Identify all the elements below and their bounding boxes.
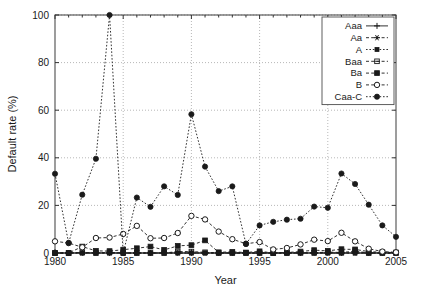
data-point-B-1989 [175, 230, 180, 235]
data-point-B-1999 [311, 237, 316, 242]
data-point-Caa-C-2000 [325, 205, 330, 210]
data-point-Ba-1999 [312, 248, 317, 253]
data-point-Caa-C-1985 [121, 250, 126, 255]
x-axis-title: Year [214, 274, 237, 286]
data-point-Caa-C-1997 [284, 217, 289, 222]
data-point-Caa-C-1983 [93, 156, 98, 161]
data-point-Ba-2001 [339, 247, 344, 252]
data-point-Ba-1983 [94, 248, 99, 253]
data-point-Ba-2002 [353, 247, 358, 252]
data-point-Ba-1995 [257, 249, 262, 254]
data-point-Ba-1981 [66, 251, 71, 256]
data-point-Ba-2000 [325, 248, 330, 253]
legend-marker-Caa-C [374, 94, 379, 99]
data-point-Caa-C-1984 [107, 12, 112, 17]
data-point-B-1993 [230, 236, 235, 241]
xtick-label-1980: 1980 [44, 256, 67, 267]
data-point-Ba-1987 [148, 244, 153, 249]
data-point-Caa-C-1990 [189, 112, 194, 117]
data-point-B-1996 [271, 247, 276, 252]
data-point-Caa-C-1988 [162, 184, 167, 189]
ytick-label-100: 100 [32, 10, 49, 21]
data-point-Caa-C-1986 [134, 195, 139, 200]
data-point-Ba-1988 [162, 248, 167, 253]
xtick-label-1985: 1985 [112, 256, 135, 267]
legend-label-aaa: Aaa [345, 20, 363, 31]
data-point-Caa-C-1994 [243, 241, 248, 246]
y-axis-title: Default rate (%) [6, 95, 18, 172]
legend-label-baa: Baa [345, 56, 363, 67]
ytick-label-80: 80 [38, 57, 50, 68]
data-point-Caa-C-1980 [52, 171, 57, 176]
data-point-B-1997 [284, 245, 289, 250]
data-point-Ba-1991 [203, 238, 208, 243]
data-point-B-2005 [393, 250, 398, 255]
data-point-B-2003 [366, 246, 371, 251]
data-point-Ba-1989 [175, 243, 180, 248]
chart-legend: AaaAaABaaBaBCaa-C [322, 17, 394, 105]
legend-label-aa: Aa [350, 32, 362, 43]
data-point-Ba-1986 [134, 246, 139, 251]
data-point-Ba-1984 [107, 249, 112, 254]
ytick-label-20: 20 [38, 200, 50, 211]
data-point-Caa-C-1981 [66, 240, 71, 245]
data-point-Caa-C-2004 [380, 223, 385, 228]
legend-marker-B [374, 82, 379, 87]
data-point-B-2001 [339, 230, 344, 235]
data-point-B-2004 [380, 249, 385, 254]
data-point-Ba-1993 [230, 249, 235, 254]
data-point-Caa-C-1989 [175, 192, 180, 197]
data-point-B-1984 [107, 235, 112, 240]
data-point-B-1998 [298, 242, 303, 247]
data-point-B-1991 [202, 217, 207, 222]
ytick-label-60: 60 [38, 105, 50, 116]
legend-label-b: B [356, 79, 362, 90]
data-point-B-1988 [161, 235, 166, 240]
data-point-Ba-1994 [244, 250, 249, 255]
data-point-Caa-C-2001 [339, 171, 344, 176]
data-point-B-2000 [325, 238, 330, 243]
data-point-Caa-C-1991 [202, 164, 207, 169]
data-point-B-1982 [80, 245, 85, 250]
data-point-Caa-C-1995 [257, 223, 262, 228]
data-point-B-1986 [134, 223, 139, 228]
data-point-B-1995 [257, 239, 262, 244]
legend-label-ba: Ba [350, 67, 362, 78]
legend-label-a: A [356, 44, 363, 55]
data-point-Caa-C-2003 [366, 202, 371, 207]
xtick-label-2005: 2005 [385, 256, 408, 267]
data-point-Ba-1990 [189, 243, 194, 248]
legend-marker-A [375, 48, 379, 52]
xtick-label-1995: 1995 [248, 256, 271, 267]
data-point-B-1992 [216, 229, 221, 234]
data-point-Caa-C-1982 [80, 192, 85, 197]
data-point-Caa-C-1999 [312, 204, 317, 209]
data-point-B-2002 [352, 239, 357, 244]
data-point-B-1983 [93, 235, 98, 240]
xtick-label-1990: 1990 [180, 256, 203, 267]
data-point-B-1987 [148, 236, 153, 241]
data-point-B-1985 [121, 231, 126, 236]
data-point-Ba-1992 [216, 250, 221, 255]
data-point-Caa-C-2005 [393, 234, 398, 239]
ytick-label-40: 40 [38, 152, 50, 163]
data-point-Caa-C-1993 [230, 184, 235, 189]
legend-label-caa-c: Caa-C [335, 91, 363, 102]
data-point-B-1980 [52, 239, 57, 244]
data-point-Ba-1998 [298, 249, 303, 254]
data-point-Caa-C-1992 [216, 189, 221, 194]
data-point-Caa-C-2002 [352, 181, 357, 186]
data-point-B-1990 [189, 213, 194, 218]
data-point-Caa-C-1987 [148, 204, 153, 209]
chart-figure: 020406080100198019851990199520002005 Yea… [0, 0, 421, 307]
data-point-Caa-C-1998 [298, 216, 303, 221]
legend-marker-Ba [375, 71, 380, 76]
data-point-Caa-C-1996 [271, 219, 276, 224]
default-rate-line-chart: 020406080100198019851990199520002005 Yea… [0, 0, 421, 307]
xtick-label-2000: 2000 [317, 256, 340, 267]
data-point-Ba-1980 [53, 251, 58, 256]
